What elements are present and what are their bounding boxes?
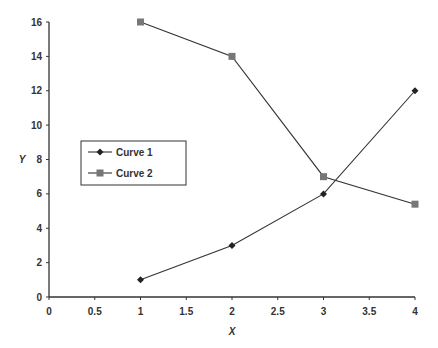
- square-marker: [320, 173, 327, 180]
- y-tick-label: 4: [36, 223, 42, 234]
- x-tick-label: 2.5: [271, 306, 285, 317]
- x-tick-label: 2: [229, 306, 235, 317]
- y-tick-label: 14: [31, 51, 43, 62]
- y-tick-label: 8: [36, 154, 42, 165]
- square-marker: [97, 170, 104, 177]
- x-tick-label: 1.5: [179, 306, 193, 317]
- x-tick-label: 1: [138, 306, 144, 317]
- x-tick-label: 3: [321, 306, 327, 317]
- y-tick-label: 6: [36, 188, 42, 199]
- x-tick-label: 3.5: [362, 306, 376, 317]
- x-axis-label: X: [228, 326, 237, 337]
- square-marker: [412, 201, 419, 208]
- x-tick-label: 0.5: [88, 306, 102, 317]
- diamond-marker: [137, 276, 144, 283]
- legend-label: Curve 1: [116, 147, 153, 158]
- line-chart: 024681012141600.511.522.533.54XY Curve 1…: [0, 0, 438, 348]
- y-tick-label: 12: [31, 85, 43, 96]
- x-tick-label: 0: [46, 306, 52, 317]
- axes: 024681012141600.511.522.533.54XY: [19, 17, 419, 338]
- y-tick-label: 10: [31, 120, 43, 131]
- legend-label: Curve 2: [116, 168, 153, 179]
- y-tick-label: 0: [36, 292, 42, 303]
- legend: Curve 1Curve 2: [81, 141, 186, 185]
- x-tick-label: 4: [412, 306, 418, 317]
- y-axis-label: Y: [19, 154, 27, 165]
- square-marker: [229, 53, 236, 60]
- diamond-marker: [229, 242, 236, 249]
- y-tick-label: 2: [36, 257, 42, 268]
- y-tick-label: 16: [31, 17, 43, 28]
- square-marker: [137, 19, 144, 26]
